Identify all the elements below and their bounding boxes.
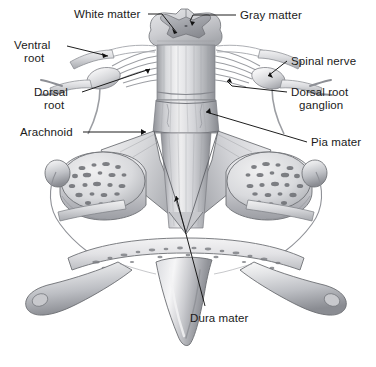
transverse-process-left [26,262,132,315]
label-dorsal-root-ganglion-line2: ganglion [299,99,343,112]
label-dorsal-root-ganglion-line1: Dorsal root [291,86,348,99]
anatomy-figure: White matter Gray matter Ventral root Sp… [0,0,376,367]
label-ventral-root-line2: root [24,52,44,65]
label-arachnoid: Arachnoid [20,126,73,139]
dorsal-rootlets-right [215,50,260,87]
vertebra-lower [26,238,347,346]
label-dorsal-root-line2: root [44,99,64,112]
label-dura-mater: Dura mater [190,312,249,325]
label-ventral-root-line1: Ventral [14,39,51,52]
label-gray-matter: Gray matter [240,9,302,22]
spongy-bone-right [227,152,311,210]
ventral-root-left [70,50,114,69]
articular-process-right [302,160,327,187]
spongy-bone-left [61,152,145,210]
nerve-ramus-right [272,88,284,134]
pia-mater-segment [153,100,219,134]
dorsal-root-ganglion-right [252,67,285,89]
label-pia-mater: Pia mater [311,136,361,149]
dorsal-root-ganglion-left [87,67,120,89]
dorsal-rootlets-left [112,50,157,87]
label-dorsal-root-line1: Dorsal [34,86,68,99]
central-canal [184,25,187,27]
arrowhead-dorsal-root [145,69,150,74]
nerve-ramus-left [88,88,100,134]
articular-process-left [45,160,70,187]
transverse-process-right [240,262,346,315]
label-white-matter: White matter [74,8,140,21]
spinal-cord-column-upper [157,45,215,100]
label-spinal-nerve: Spinal nerve [291,55,356,68]
